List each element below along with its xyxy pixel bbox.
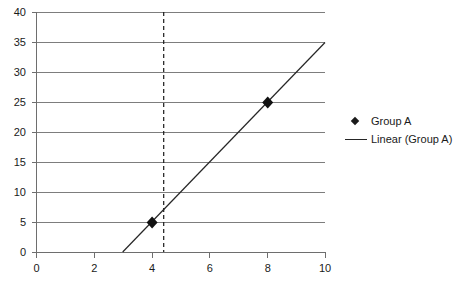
x-tick-label-0: 0 xyxy=(22,263,52,274)
legend-item-linear-group-a[interactable]: Linear (Group A) xyxy=(345,130,457,148)
line-marker-icon xyxy=(345,130,371,148)
gridlines xyxy=(36,13,325,223)
x-tick-label-2: 2 xyxy=(79,263,109,274)
x-tick-label-8: 8 xyxy=(253,263,283,274)
y-tick-label-35: 35 xyxy=(0,37,26,48)
y-tick-label-30: 30 xyxy=(0,67,26,78)
y-tick-label-15: 15 xyxy=(0,157,26,168)
chart-legend: Group A Linear (Group A) xyxy=(345,112,457,148)
diamond-marker-icon xyxy=(345,112,371,130)
x-tick-label-4: 4 xyxy=(137,263,167,274)
y-tick-label-0: 0 xyxy=(0,247,26,258)
chart-container: 40 35 30 25 20 15 10 5 0 0 2 4 6 8 10 Gr… xyxy=(0,0,460,286)
legend-item-group-a[interactable]: Group A xyxy=(345,112,457,130)
x-tick-label-10: 10 xyxy=(310,263,340,274)
x-tick-label-6: 6 xyxy=(195,263,225,274)
y-tick-label-40: 40 xyxy=(0,7,26,18)
legend-label-group-a: Group A xyxy=(371,115,411,127)
y-tick-label-10: 10 xyxy=(0,187,26,198)
legend-label-linear-group-a: Linear (Group A) xyxy=(371,133,452,145)
y-tick-label-20: 20 xyxy=(0,127,26,138)
y-tick-label-25: 25 xyxy=(0,97,26,108)
y-tick-label-5: 5 xyxy=(0,217,26,228)
y-axis-ticks xyxy=(32,13,36,253)
